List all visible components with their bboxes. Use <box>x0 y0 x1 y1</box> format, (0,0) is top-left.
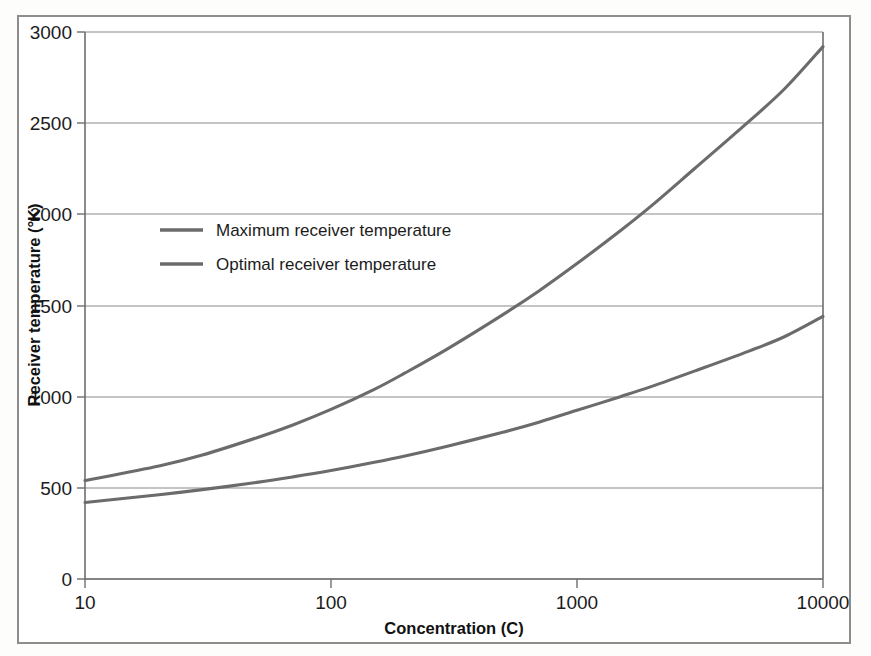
legend-label-maximum: Maximum receiver temperature <box>216 221 451 240</box>
x-tick-label-1000: 1000 <box>556 592 598 613</box>
x-tick-label-10: 10 <box>74 592 95 613</box>
y-tick-label-0: 0 <box>61 569 72 590</box>
y-tick-marks <box>77 32 85 579</box>
y-tick-label-500: 500 <box>40 478 72 499</box>
y-tick-label-3000: 3000 <box>30 22 72 43</box>
x-tick-labels: 10 100 1000 10000 <box>74 592 849 613</box>
legend: Maximum receiver temperature Optimal rec… <box>160 221 451 274</box>
figure-container: 3000 2500 2000 1500 1000 500 0 10 100 10… <box>0 0 871 656</box>
legend-label-optimal: Optimal receiver temperature <box>216 255 436 274</box>
y-axis-title: Receiver temperature (°K) <box>25 204 43 407</box>
y-tick-label-2500: 2500 <box>30 113 72 134</box>
x-tick-label-100: 100 <box>315 592 347 613</box>
x-tick-label-10000: 10000 <box>797 592 850 613</box>
x-tick-marks <box>85 579 823 588</box>
x-axis-title: Concentration (C) <box>384 619 523 637</box>
chart-svg: 3000 2500 2000 1500 1000 500 0 10 100 10… <box>0 0 871 656</box>
gridlines <box>85 32 823 579</box>
